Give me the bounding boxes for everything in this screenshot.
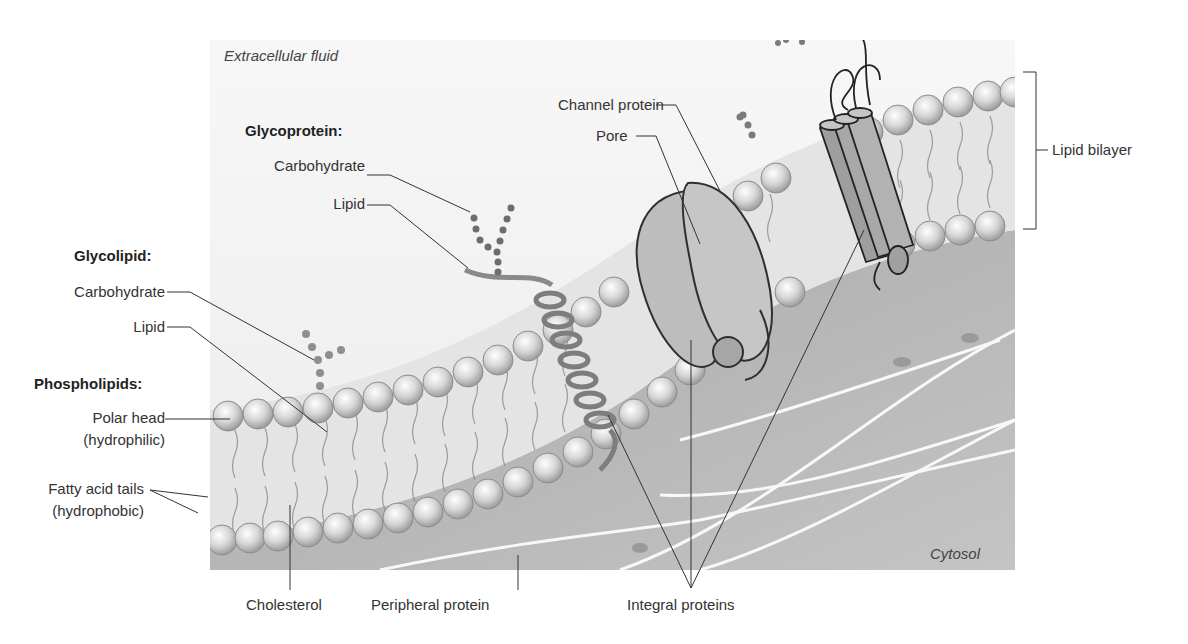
glycoprotein-heading: Glycoprotein: (245, 122, 343, 140)
glycolipid-lipid-label: Lipid (20, 318, 165, 336)
phospholipids-heading: Phospholipids: (34, 375, 142, 393)
glycolipid-carbohydrate-label: Carbohydrate (20, 283, 165, 301)
fatty-acid-tails-label: Fatty acid tails (0, 480, 144, 498)
pore-label: Pore (596, 127, 628, 145)
polar-head-label: Polar head (20, 409, 165, 427)
hydrophobic-label: (hydrophobic) (0, 502, 144, 520)
cytosol-label: Cytosol (930, 545, 980, 563)
hydrophilic-label: (hydrophilic) (20, 431, 165, 449)
peripheral-protein-label: Peripheral protein (371, 596, 489, 614)
channel-protein-label: Channel protein (558, 96, 664, 114)
glycoprotein-lipid-label: Lipid (250, 195, 365, 213)
lipid-bilayer-label: Lipid bilayer (1052, 141, 1132, 159)
extracellular-fluid-label: Extracellular fluid (224, 47, 338, 65)
cholesterol-label: Cholesterol (246, 596, 322, 614)
glycoprotein-carbohydrate-label: Carbohydrate (250, 157, 365, 175)
integral-proteins-label: Integral proteins (627, 596, 735, 614)
cell-membrane-diagram: Extracellular fluid Cytosol Glycoprotein… (0, 0, 1188, 644)
glycolipid-heading: Glycolipid: (74, 247, 152, 265)
